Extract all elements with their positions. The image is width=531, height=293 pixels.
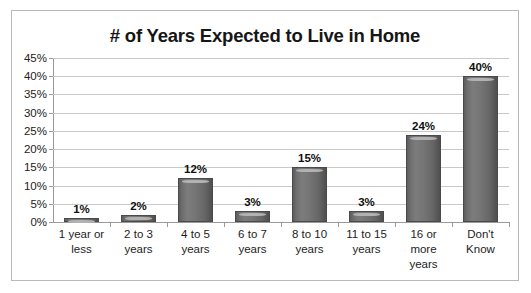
x-axis-category-label: 16 ormoreyears xyxy=(395,227,452,272)
bar-slot: 12% xyxy=(167,58,224,222)
x-axis-category-line: Don't xyxy=(452,227,509,242)
y-axis-tick-label: 40% xyxy=(13,70,47,82)
bar-value-label: 24% xyxy=(395,120,452,132)
x-axis-category-label: Don'tKnow xyxy=(452,227,509,257)
bar-top-highlight xyxy=(296,169,323,172)
y-axis-tick-label: 20% xyxy=(13,143,47,155)
chart-title: # of Years Expected to Live in Home xyxy=(12,25,518,47)
bar[interactable] xyxy=(64,218,99,222)
bar-value-label: 1% xyxy=(53,203,110,215)
y-axis-tick-label: 0% xyxy=(13,216,47,228)
bar-top-highlight xyxy=(239,213,266,216)
x-axis-category-line: 1 year or xyxy=(53,227,110,242)
bar[interactable] xyxy=(292,167,327,222)
y-axis-tick-label: 10% xyxy=(13,180,47,192)
chart-frame: # of Years Expected to Live in Home 0%5%… xyxy=(11,10,519,281)
x-axis-category-line: Know xyxy=(452,242,509,257)
plot-area: 0%5%10%15%20%25%30%35%40%45% 1%2%12%3%15… xyxy=(53,58,509,222)
y-axis-tick-label: 5% xyxy=(13,198,47,210)
bar[interactable] xyxy=(121,215,156,222)
x-axis-category-label: 11 to 15years xyxy=(338,227,395,257)
y-axis-tick xyxy=(49,222,53,223)
x-axis-category-line: 4 to 5 xyxy=(167,227,224,242)
bar-slot: 15% xyxy=(281,58,338,222)
x-axis-category-labels: 1 year orless2 to 3years4 to 5years6 to … xyxy=(53,227,509,282)
bar-top-highlight xyxy=(182,180,209,183)
x-axis-category-label: 1 year orless xyxy=(53,227,110,257)
x-axis-category-line: 6 to 7 xyxy=(224,227,281,242)
bar-value-label: 12% xyxy=(167,163,224,175)
bar-top-highlight xyxy=(353,213,380,216)
bar-value-label: 40% xyxy=(452,61,509,73)
bar[interactable] xyxy=(178,178,213,222)
x-axis-category-line: less xyxy=(53,242,110,257)
bar[interactable] xyxy=(406,135,441,222)
bar-top-highlight xyxy=(467,78,494,81)
bar-slot: 3% xyxy=(224,58,281,222)
bar-slot: 1% xyxy=(53,58,110,222)
bar-top-highlight xyxy=(410,137,437,140)
x-axis-category-line: years xyxy=(110,242,167,257)
y-axis-tick-label: 15% xyxy=(13,161,47,173)
chart-screenshot: # of Years Expected to Live in Home 0%5%… xyxy=(0,0,531,293)
y-axis-tick-label: 30% xyxy=(13,107,47,119)
bar-value-label: 3% xyxy=(224,196,281,208)
x-axis-category-line: more xyxy=(395,242,452,257)
bar-slot: 3% xyxy=(338,58,395,222)
x-axis-category-label: 4 to 5years xyxy=(167,227,224,257)
y-axis-tick-label: 25% xyxy=(13,125,47,137)
bar[interactable] xyxy=(463,76,498,222)
x-axis-category-line: 2 to 3 xyxy=(110,227,167,242)
bar-slot: 2% xyxy=(110,58,167,222)
x-axis-category-line: 8 to 10 xyxy=(281,227,338,242)
bar-slot: 40% xyxy=(452,58,509,222)
x-axis-category-line: 11 to 15 xyxy=(338,227,395,242)
bar-value-label: 15% xyxy=(281,152,338,164)
x-axis-category-line: years xyxy=(395,257,452,272)
x-axis-tick xyxy=(509,222,510,227)
bar-series: 1%2%12%3%15%3%24%40% xyxy=(53,58,509,222)
x-axis-category-line: years xyxy=(338,242,395,257)
x-axis-category-label: 6 to 7years xyxy=(224,227,281,257)
x-axis-category-line: years xyxy=(281,242,338,257)
y-axis-tick-label: 35% xyxy=(13,88,47,100)
bar-value-label: 2% xyxy=(110,200,167,212)
bar-slot: 24% xyxy=(395,58,452,222)
bar-value-label: 3% xyxy=(338,196,395,208)
x-axis-category-line: years xyxy=(224,242,281,257)
x-axis-category-label: 2 to 3years xyxy=(110,227,167,257)
x-axis-category-line: years xyxy=(167,242,224,257)
y-axis-tick-label: 45% xyxy=(13,52,47,64)
bar[interactable] xyxy=(235,211,270,222)
bar[interactable] xyxy=(349,211,384,222)
x-axis-category-line: 16 or xyxy=(395,227,452,242)
bar-top-highlight xyxy=(125,217,152,220)
x-axis-category-label: 8 to 10years xyxy=(281,227,338,257)
